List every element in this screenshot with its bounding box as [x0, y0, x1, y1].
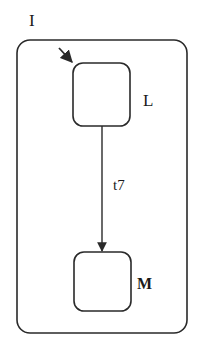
- state-m-box: [74, 252, 131, 311]
- statechart-canvas: [0, 0, 199, 356]
- state-m-label: M: [137, 276, 152, 292]
- initial-transition-arrow: [59, 48, 72, 62]
- superstate-i-label: I: [29, 12, 35, 29]
- state-l-box: [73, 63, 130, 126]
- state-l-label: L: [143, 92, 153, 109]
- transition-t7-label: t7: [113, 178, 125, 193]
